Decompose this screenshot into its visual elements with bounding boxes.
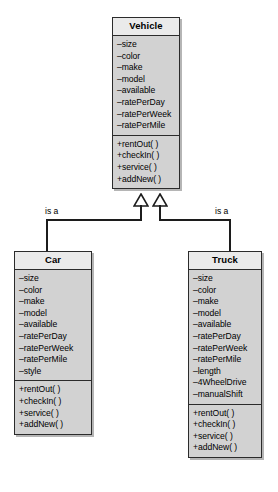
connector-car-vertical <box>46 219 48 251</box>
class-title-vehicle: Vehicle <box>113 18 179 36</box>
attribute-item: –model <box>117 74 179 86</box>
attribute-item: –model <box>19 308 91 320</box>
class-attributes-truck: –size –color –make –model –available –ra… <box>189 270 261 405</box>
class-title-car: Car <box>15 252 91 270</box>
attribute-item: –size <box>117 39 179 51</box>
attribute-item: –color <box>193 285 261 297</box>
attribute-item: –color <box>117 51 179 63</box>
attribute-item: –manualShift <box>193 389 261 401</box>
method-item: +service( ) <box>193 431 261 443</box>
connector-car-horizontal <box>46 219 142 221</box>
attribute-item: –ratePerMile <box>117 120 179 132</box>
class-box-car[interactable]: Car –size –color –make –model –available… <box>14 251 92 435</box>
method-item: +checkIn( ) <box>193 419 261 431</box>
attribute-item: –size <box>193 273 261 285</box>
attribute-item: –ratePerDay <box>193 331 261 343</box>
attribute-item: –make <box>19 296 91 308</box>
connector-truck-vertical <box>229 219 231 251</box>
method-item: +service( ) <box>117 162 179 174</box>
method-item: +addNew( ) <box>19 419 91 431</box>
method-item: +addNew( ) <box>117 174 179 186</box>
method-item: +service( ) <box>19 408 91 420</box>
method-item: +rentOut( ) <box>193 408 261 420</box>
class-attributes-vehicle: –size –color –make –model –available –ra… <box>113 36 179 136</box>
attribute-item: –ratePerWeek <box>19 343 91 355</box>
class-methods-car: +rentOut( ) +checkIn( ) +service( ) +add… <box>15 381 91 433</box>
method-item: +checkIn( ) <box>19 396 91 408</box>
uml-diagram-canvas: Vehicle –size –color –make –model –avail… <box>0 0 278 492</box>
attribute-item: –4WheelDrive <box>193 377 261 389</box>
class-methods-truck: +rentOut( ) +checkIn( ) +service( ) +add… <box>189 405 261 457</box>
class-box-vehicle[interactable]: Vehicle –size –color –make –model –avail… <box>112 17 180 189</box>
attribute-item: –make <box>117 62 179 74</box>
method-item: +checkIn( ) <box>117 150 179 162</box>
connector-truck-horizontal <box>159 219 231 221</box>
method-item: +addNew( ) <box>193 442 261 454</box>
attribute-item: –color <box>19 285 91 297</box>
attribute-item: –size <box>19 273 91 285</box>
attribute-item: –make <box>193 296 261 308</box>
class-methods-vehicle: +rentOut( ) +checkIn( ) +service( ) +add… <box>113 136 179 188</box>
class-box-truck[interactable]: Truck –size –color –make –model –availab… <box>188 251 262 458</box>
relationship-label-car-is-a: is a <box>45 206 58 217</box>
attribute-item: –ratePerMile <box>193 354 261 366</box>
attribute-item: –available <box>117 85 179 97</box>
attribute-item: –available <box>19 319 91 331</box>
attribute-item: –available <box>193 319 261 331</box>
attribute-item: –ratePerMile <box>19 354 91 366</box>
attribute-item: –ratePerWeek <box>117 109 179 121</box>
method-item: +rentOut( ) <box>117 139 179 151</box>
attribute-item: –model <box>193 308 261 320</box>
attribute-item: –ratePerDay <box>19 331 91 343</box>
relationship-label-truck-is-a: is a <box>215 206 228 217</box>
class-attributes-car: –size –color –make –model –available –ra… <box>15 270 91 381</box>
attribute-item: –ratePerDay <box>117 97 179 109</box>
class-title-truck: Truck <box>189 252 261 270</box>
attribute-item: –ratePerWeek <box>193 343 261 355</box>
method-item: +rentOut( ) <box>19 384 91 396</box>
attribute-item: –length <box>193 366 261 378</box>
attribute-item: –style <box>19 366 91 378</box>
